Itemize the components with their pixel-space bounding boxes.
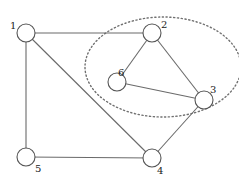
- node-5: [17, 148, 35, 166]
- node-label-4: 4: [157, 165, 163, 176]
- node-label-5: 5: [35, 163, 41, 174]
- node-1: [17, 24, 35, 42]
- node-label-6: 6: [118, 67, 124, 78]
- cluster-ellipse-2-3-6: [85, 17, 239, 117]
- edge-6-3: [117, 82, 204, 100]
- node-label-1: 1: [10, 20, 16, 31]
- graph-diagram: 123456: [0, 0, 239, 181]
- edge-5-4: [26, 157, 152, 158]
- edge-2-3: [152, 33, 204, 100]
- edges: [26, 33, 204, 158]
- node-label-2: 2: [161, 19, 167, 30]
- edge-1-4: [26, 33, 152, 158]
- node-2: [143, 24, 161, 42]
- node-label-3: 3: [210, 84, 216, 95]
- node-labels: 123456: [10, 19, 216, 176]
- edge-3-4: [152, 100, 204, 158]
